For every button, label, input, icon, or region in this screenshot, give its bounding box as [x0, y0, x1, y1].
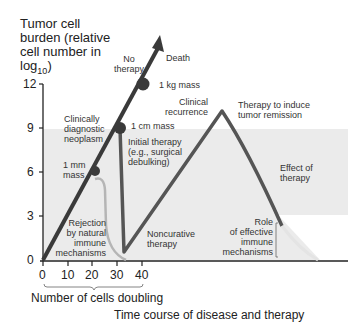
- x-tick-10: 10: [61, 268, 74, 282]
- label-rejection-natural-immune: Rejectionby naturalimmunemechanisms: [50, 218, 106, 258]
- y-tick-6: 6: [27, 165, 34, 179]
- x-label-doubling: Number of cells doubling: [31, 291, 163, 305]
- y-tick-9: 9: [27, 121, 34, 135]
- label-clinical-recurrence: Clinicalrecurrence: [160, 97, 208, 117]
- label-initial-therapy: Initial therapy(e.g., surgicaldebulking): [128, 137, 182, 167]
- label-no-therapy: Notherapy: [112, 54, 146, 74]
- label-clinically-diagnostic: Clinicallydiagnosticneoplasm: [64, 114, 105, 144]
- y-tick-0: 0: [27, 253, 34, 267]
- x-tick-0: 0: [39, 268, 46, 282]
- label-role-immune-mechanisms: Roleof effectiveimmunemechanisms: [216, 217, 273, 257]
- label-1kg-mass: 1 kg mass: [159, 80, 200, 90]
- label-1mm-mass: 1 mmmass: [63, 160, 86, 180]
- y-axis-title: Tumor cell burden (relative cell number …: [20, 17, 110, 78]
- y-tick-3: 3: [27, 209, 34, 223]
- x-tick-30: 30: [110, 268, 123, 282]
- marker-1cm: [114, 122, 126, 134]
- x-tick-40: 40: [135, 268, 148, 282]
- x-tick-20: 20: [85, 268, 98, 282]
- marker-1mm: [90, 166, 100, 176]
- label-1cm-mass: 1 cm mass: [131, 121, 175, 131]
- marker-1kg: [137, 78, 150, 91]
- label-therapy-induce-remission: Therapy to inducetumor remission: [238, 100, 310, 120]
- x-label-time: Time course of disease and therapy: [114, 308, 304, 322]
- label-effect-of-therapy: Effect oftherapy: [280, 163, 313, 183]
- y-tick-12: 12: [23, 77, 36, 91]
- label-noncurative-therapy: Noncurativetherapy: [147, 229, 195, 249]
- label-death: Death: [166, 53, 190, 63]
- death-arrow-icon: [152, 35, 164, 52]
